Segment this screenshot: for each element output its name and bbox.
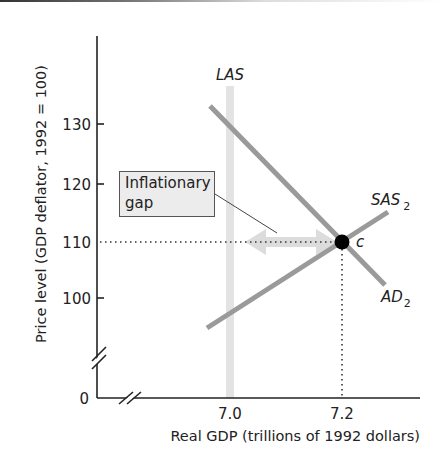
- ad-label-main: AD: [380, 288, 403, 306]
- y-tick-100: 100: [62, 290, 91, 308]
- y-tick-0: 0: [79, 390, 89, 408]
- ad-label: AD2: [380, 288, 411, 310]
- gap-pointer-line: [215, 194, 277, 233]
- gap-label-line2: gap: [125, 193, 214, 213]
- gap-label-line1: Inflationary: [125, 173, 214, 193]
- y-tick-120: 120: [62, 176, 91, 194]
- inflationary-gap-label-box: Inflationary gap: [119, 171, 215, 217]
- chart-canvas: 130 120 110 100 0 7.0 7.2 Real GDP (tril…: [0, 0, 442, 472]
- x-tick-7-2: 7.2: [330, 405, 354, 423]
- equilibrium-point: [335, 235, 350, 250]
- sas-label: SAS2: [371, 191, 410, 213]
- y-axis-title: Price level (GDP deflator, 1992 = 100): [33, 65, 49, 343]
- x-axis-title: Real GDP (trillions of 1992 dollars): [170, 428, 420, 444]
- sas-label-sub: 2: [403, 200, 410, 213]
- point-c-label: c: [356, 233, 365, 251]
- las-label: LAS: [216, 66, 245, 84]
- ad-label-sub: 2: [404, 297, 411, 310]
- x-tick-7-0: 7.0: [218, 405, 242, 423]
- y-tick-110: 110: [62, 234, 91, 252]
- y-tick-130: 130: [62, 116, 91, 134]
- sas-label-main: SAS: [371, 191, 401, 209]
- ad-curve: [210, 106, 385, 285]
- sas-curve: [207, 212, 388, 328]
